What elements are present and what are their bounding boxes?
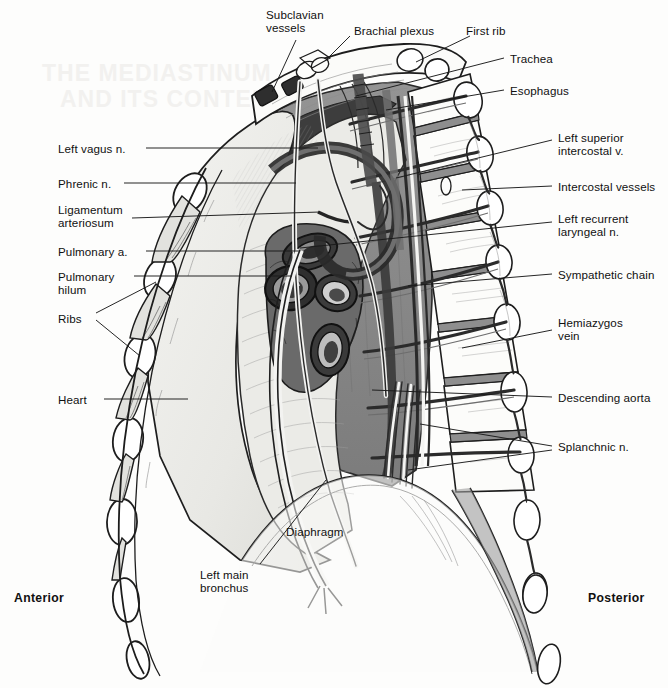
mediastinum-illustration <box>0 0 668 688</box>
label-splanchnic-nerve: Splanchnic n. <box>558 440 629 453</box>
label-ribs: Ribs <box>58 312 82 325</box>
label-brachial-plexus: Brachial plexus <box>354 24 434 37</box>
label-phrenic-nerve: Phrenic n. <box>58 177 111 190</box>
label-left-superior-intercostal-vein: Left superior intercostal v. <box>558 131 624 158</box>
label-left-main-bronchus: Left main bronchus <box>200 568 249 595</box>
label-pulmonary-hilum: Pulmonary hilum <box>58 270 114 297</box>
label-hemiazygos-vein: Hemiazygos vein <box>558 316 623 343</box>
label-first-rib: First rib <box>466 24 506 37</box>
label-ligamentum-arteriosum: Ligamentum arteriosum <box>58 203 123 230</box>
label-heart: Heart <box>58 393 87 406</box>
label-descending-aorta: Descending aorta <box>558 391 650 404</box>
label-esophagus: Esophagus <box>510 84 569 97</box>
orientation-posterior: Posterior <box>588 592 645 605</box>
label-subclavian-vessels: Subclavian vessels <box>266 8 324 35</box>
label-sympathetic-chain: Sympathetic chain <box>558 268 654 281</box>
label-diaphragm: Diaphragm <box>286 525 344 538</box>
label-pulmonary-artery: Pulmonary a. <box>58 245 128 258</box>
label-intercostal-vessels: Intercostal vessels <box>558 180 655 193</box>
label-trachea: Trachea <box>510 52 553 65</box>
label-left-recurrent-laryngeal-nerve: Left recurrent laryngeal n. <box>558 212 628 239</box>
label-left-vagus-nerve: Left vagus n. <box>58 142 126 155</box>
orientation-anterior: Anterior <box>14 592 64 605</box>
anatomy-figure: THE MEDIASTINUM AND ITS CONTENTS <box>0 0 668 688</box>
